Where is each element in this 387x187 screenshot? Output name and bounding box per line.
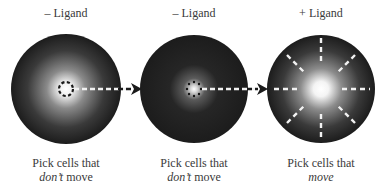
petri-dish-3 [267, 35, 375, 143]
caption-line-2: move [256, 170, 386, 184]
arrowhead-icon [257, 83, 268, 95]
caption-line-1: Pick cells that [129, 156, 259, 170]
caption-emphasis: don’t [39, 170, 63, 184]
caption-emphasis: don’t [167, 170, 191, 184]
panel-2-caption: Pick cells that don’t move [129, 156, 259, 184]
caption-line-2: don’t move [1, 170, 131, 184]
petri-dish-2 [140, 35, 248, 143]
petri-dish-1 [11, 34, 121, 144]
caption-rest: move [63, 170, 93, 184]
panel-1-title: – Ligand [1, 6, 131, 20]
panel-2-title: – Ligand [129, 6, 259, 20]
caption-line-2: don’t move [129, 170, 259, 184]
caption-line-1: Pick cells that [256, 156, 386, 170]
panel-1-caption: Pick cells that don’t move [1, 156, 131, 184]
caption-line-1: Pick cells that [1, 156, 131, 170]
caption-rest: move [191, 170, 221, 184]
panel-3-caption: Pick cells that move [256, 156, 386, 184]
panel-3-title: + Ligand [256, 6, 386, 20]
caption-emphasis: move [308, 170, 333, 184]
